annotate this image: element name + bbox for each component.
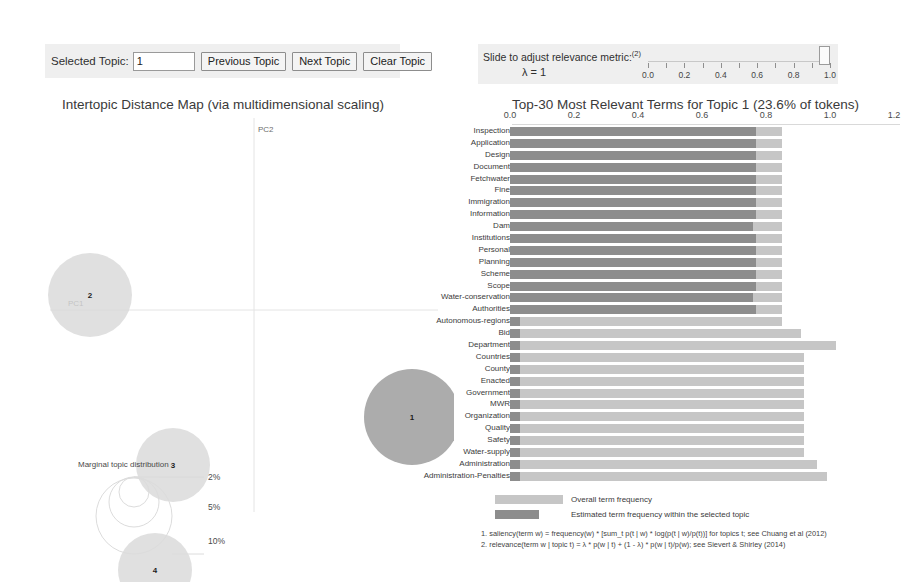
term-row[interactable]: Scheme [380,269,900,281]
selected-topic-input[interactable] [133,52,195,71]
x-axis-tick-label: 0.4 [632,110,645,120]
legend-label-topic: Estimated term frequency within the sele… [571,509,749,520]
term-label: Quality [485,423,510,433]
term-row[interactable]: Countries [380,352,900,364]
term-label: Document [474,162,510,172]
term-label: Information [470,209,510,219]
term-row[interactable]: Information [380,209,900,221]
legend-label-overall: Overall term frequency [571,494,652,505]
slider-tick [794,63,795,68]
size-legend-circle-2 [119,477,149,507]
term-row[interactable]: Authorities [380,304,900,316]
topic-frequency-bar [510,139,756,148]
topic-frequency-bar [510,222,753,231]
legend-item-topic: Estimated term frequency within the sele… [495,509,895,522]
term-row[interactable]: Scope [380,281,900,293]
topic-control-bar: Selected Topic: Previous Topic Next Topi… [45,44,400,78]
barchart-x-axis-ticks: 0.00.20.40.60.81.01.2 [380,108,900,124]
term-label: Countries [476,352,510,362]
slider-tick-label: 0.0 [642,70,654,80]
term-row[interactable]: Department [380,340,900,352]
term-label: Scheme [481,269,510,279]
slider-tick [775,63,776,68]
term-row[interactable]: Design [380,150,900,162]
topic-frequency-bar [510,305,756,314]
slider-tick [648,63,649,68]
barchart-legend: Overall term frequency Estimated term fr… [495,494,895,524]
topic-frequency-bar [510,472,520,481]
term-row[interactable]: Quality [380,423,900,435]
term-row[interactable]: Dam [380,221,900,233]
size-legend-label-10: 10% [208,536,225,546]
overall-frequency-bar [510,353,804,362]
term-label: Personal [478,245,510,255]
overall-frequency-bar [510,365,804,374]
term-label: Government [466,388,510,398]
slider-tick-label: 0.8 [788,70,800,80]
topic-circle-label-2: 2 [88,291,93,300]
topic-frequency-bar [510,282,756,291]
term-row[interactable]: Institutions [380,233,900,245]
topic-frequency-bar [510,293,753,302]
lambda-value-label: λ = 1 [522,66,546,78]
x-axis-tick-label: 1.0 [824,110,837,120]
overall-frequency-bar [510,472,827,481]
term-row[interactable]: Inspection [380,126,900,138]
term-label: Fetchwater [470,174,510,184]
term-row[interactable]: Administration [380,459,900,471]
term-row[interactable]: MWR [380,399,900,411]
term-row[interactable]: Water-supply [380,447,900,459]
slider-tick [666,63,667,68]
term-label: MWR [490,399,510,409]
overall-frequency-bar [510,424,804,433]
term-row[interactable]: Safety [380,435,900,447]
term-row[interactable]: Document [380,162,900,174]
previous-topic-button[interactable]: Previous Topic [201,52,286,71]
term-row[interactable]: Administration-Penalties [380,471,900,483]
topic-circle-label-3: 3 [171,461,176,470]
term-row[interactable]: Autonomous-regions [380,316,900,328]
term-row[interactable]: Organization [380,411,900,423]
term-label: Safety [487,435,510,445]
term-row[interactable]: Water-conservation [380,292,900,304]
topic-frequency-bar [510,317,520,326]
relevance-slider-bar: Slide to adjust relevance metric:(2) λ =… [478,44,838,84]
term-label: Administration-Penalties [424,471,510,481]
term-label: Fine [494,185,510,195]
relevant-terms-barchart: 0.00.20.40.60.81.01.2 InspectionApplicat… [380,108,900,508]
term-row[interactable]: Fetchwater [380,174,900,186]
x-axis-tick-label: 0.0 [504,110,517,120]
term-label: Water-supply [463,447,510,457]
term-row[interactable]: Fine [380,185,900,197]
topic-frequency-bar [510,175,756,184]
topic-frequency-bar [510,365,520,374]
term-row[interactable]: County [380,364,900,376]
term-row[interactable]: Personal [380,245,900,257]
term-label: Immigration [468,197,510,207]
footnotes: 1. saliency(term w) = frequency(w) * [su… [481,528,901,550]
ldavis-app: Selected Topic: Previous Topic Next Topi… [0,0,902,588]
topic-frequency-bar [510,151,756,160]
footnote: 1. saliency(term w) = frequency(w) * [su… [481,528,901,539]
legend-swatch-topic-icon [495,510,539,519]
slider-tick-label: 0.6 [751,70,763,80]
term-label: Bid [498,328,510,338]
term-row[interactable]: Planning [380,257,900,269]
topic-frequency-bar [510,448,520,457]
topic-frequency-bar [510,210,756,219]
overall-frequency-bar [510,436,804,445]
slider-tick [684,63,685,68]
slider-track[interactable] [648,50,828,62]
term-row[interactable]: Enacted [380,376,900,388]
clear-topic-button[interactable]: Clear Topic [363,52,432,71]
legend-swatch-overall-icon [495,495,563,504]
term-row[interactable]: Bid [380,328,900,340]
term-row[interactable]: Immigration [380,197,900,209]
barchart-axis-line [512,124,900,125]
term-label: Design [485,150,510,160]
next-topic-button[interactable]: Next Topic [292,52,357,71]
term-row[interactable]: Application [380,138,900,150]
term-label: Enacted [481,376,510,386]
topic-frequency-bar [510,198,756,207]
term-row[interactable]: Government [380,388,900,400]
